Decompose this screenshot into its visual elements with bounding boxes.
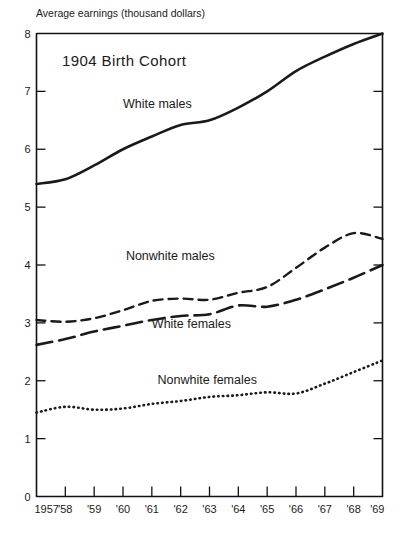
series-label-nonwhite-males: Nonwhite males (126, 249, 215, 263)
series-label-white-males: White males (123, 97, 192, 111)
x-tick-label: '65 (260, 503, 274, 515)
x-tick-label: '69 (370, 503, 384, 515)
y-tick-label: 6 (24, 143, 30, 155)
y-tick-label: 7 (24, 85, 30, 97)
x-tick-label: '61 (145, 503, 159, 515)
series-label-nonwhite-females: Nonwhite females (158, 373, 257, 387)
y-axis-ticks: 012345678 (24, 28, 382, 503)
x-tick-label: 1957 (35, 503, 59, 515)
chart-svg: Average earnings (thousand dollars) 0123… (0, 0, 412, 538)
y-tick-label: 4 (24, 259, 30, 271)
x-tick-label: '59 (87, 503, 101, 515)
x-tick-label: '67 (318, 503, 332, 515)
x-axis-ticks: 1957'58'59'60'61'62'63'64'65'66'67'68'69 (35, 487, 385, 515)
chart-figure: Average earnings (thousand dollars) 0123… (0, 0, 412, 538)
series-line-white-females (37, 265, 383, 345)
chart-title: 1904 Birth Cohort (62, 52, 187, 69)
x-tick-label: '60 (116, 503, 130, 515)
y-tick-label: 8 (24, 28, 30, 40)
x-tick-label: '58 (58, 503, 72, 515)
y-tick-label: 0 (24, 491, 30, 503)
y-axis-caption: Average earnings (thousand dollars) (36, 7, 205, 19)
x-tick-label: '63 (202, 503, 216, 515)
series-line-nonwhite-males (37, 233, 383, 322)
y-tick-label: 2 (24, 375, 30, 387)
y-tick-label: 5 (24, 201, 30, 213)
series-lines (37, 34, 383, 413)
y-tick-label: 1 (24, 433, 30, 445)
x-tick-label: '64 (231, 503, 245, 515)
x-tick-label: '66 (289, 503, 303, 515)
y-tick-label: 3 (24, 317, 30, 329)
series-label-white-females: White females (152, 317, 231, 331)
x-tick-label: '68 (346, 503, 360, 515)
x-tick-label: '62 (173, 503, 187, 515)
